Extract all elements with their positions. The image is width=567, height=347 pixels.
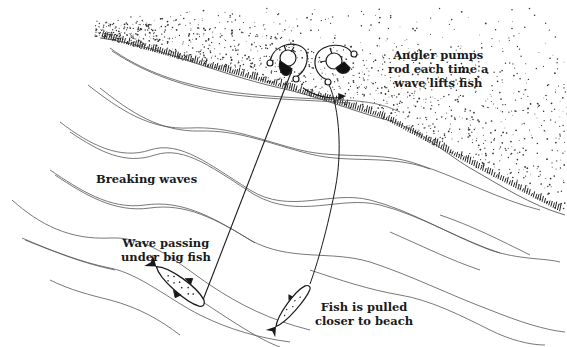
sand-dot: [495, 29, 496, 30]
sand-dot: [165, 29, 166, 30]
sand-dot: [361, 84, 362, 85]
sand-dot: [452, 139, 453, 140]
sand-dot: [306, 17, 308, 19]
sand-dot: [519, 151, 521, 153]
sand-dot: [116, 30, 117, 31]
sand-dot: [524, 90, 525, 91]
sand-dot: [444, 133, 446, 135]
sand-dot: [482, 162, 484, 164]
sand-dot: [555, 138, 556, 139]
foam-stroke: [370, 106, 372, 114]
sand-dot: [124, 23, 126, 25]
sand-dot: [310, 19, 311, 20]
sand-dot: [127, 27, 128, 28]
sand-dot: [409, 112, 411, 114]
sand-dot: [190, 54, 191, 55]
sand-dot: [204, 29, 206, 31]
sand-dot: [469, 135, 471, 137]
foam-stroke: [467, 155, 469, 163]
sand-dot: [514, 68, 515, 69]
sand-dot: [199, 56, 200, 57]
sand-dot: [239, 29, 240, 30]
sand-dot: [254, 22, 255, 23]
sand-dot: [560, 160, 561, 161]
sand-dot: [499, 148, 500, 149]
sand-dot: [222, 57, 223, 58]
sand-dot: [218, 15, 219, 16]
foam-stroke: [216, 63, 218, 69]
sand-dot: [186, 51, 187, 52]
sand-dot: [464, 111, 465, 112]
sand-dot: [265, 67, 266, 68]
sand-dot: [517, 46, 518, 47]
sand-dot: [348, 15, 349, 16]
foam-stroke: [408, 127, 410, 132]
sand-dot: [430, 96, 431, 97]
sand-dot: [458, 46, 459, 47]
sand-dot: [154, 20, 155, 21]
foam-stroke: [265, 77, 267, 83]
sand-dot: [224, 47, 225, 48]
sand-dot: [466, 118, 468, 120]
sand-dot: [109, 23, 110, 24]
sand-dot: [371, 67, 373, 69]
sand-dot: [186, 12, 187, 13]
sand-dot: [172, 41, 173, 42]
sand-dot: [520, 56, 521, 57]
sand-dot: [528, 79, 529, 80]
sand-dot: [271, 71, 272, 72]
sand-dot: [221, 35, 222, 36]
sand-dot: [505, 150, 507, 152]
foam-stroke: [300, 86, 302, 93]
sand-dot: [497, 108, 498, 109]
sand-dot: [156, 35, 158, 37]
sand-dot: [266, 38, 267, 39]
sand-dot: [170, 16, 171, 17]
sand-dot: [550, 119, 551, 120]
sand-dot: [491, 96, 492, 97]
sand-dot: [554, 109, 555, 110]
sand-dot: [222, 58, 223, 59]
sand-dot: [345, 93, 347, 95]
foam-stroke: [362, 107, 364, 112]
sand-dot: [555, 91, 556, 92]
foam-stroke: [245, 73, 247, 77]
foam-stroke: [478, 163, 480, 169]
sand-dot: [180, 15, 181, 16]
sand-dot: [254, 26, 255, 27]
sand-dot: [255, 36, 256, 37]
sand-dot: [366, 60, 367, 61]
sand-dot: [275, 37, 277, 39]
sand-dot: [450, 123, 451, 124]
sand-dot: [315, 86, 317, 88]
sand-dot: [383, 108, 384, 109]
foam-stroke: [293, 84, 295, 91]
sand-dot: [257, 50, 258, 51]
sand-dot: [373, 61, 374, 62]
sand-dot: [387, 103, 388, 104]
sand-dot: [143, 24, 144, 25]
sand-dot: [408, 115, 409, 116]
sand-dot: [501, 121, 502, 122]
sand-dot: [309, 65, 311, 67]
sand-dot: [490, 132, 492, 134]
sand-dot: [380, 92, 382, 94]
sand-dot: [134, 38, 135, 39]
foam-stroke: [507, 177, 509, 184]
sand-dot: [416, 27, 418, 29]
sand-dot: [319, 60, 320, 61]
sand-dot: [379, 67, 380, 68]
sand-dot: [363, 79, 365, 81]
sand-dot: [179, 35, 180, 36]
sand-dot: [202, 44, 203, 45]
sand-dot: [333, 75, 334, 76]
sand-dot: [319, 91, 320, 92]
foam-stroke: [527, 188, 529, 194]
sand-dot: [132, 24, 133, 25]
sand-dot: [316, 86, 317, 87]
sand-dot: [205, 57, 206, 58]
sand-dot: [379, 37, 381, 39]
sand-dot: [248, 56, 250, 58]
sand-dot: [560, 167, 561, 168]
sand-dot: [481, 43, 482, 44]
